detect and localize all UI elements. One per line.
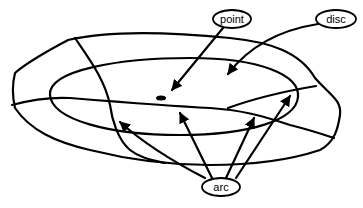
disc-label: disc bbox=[316, 10, 356, 28]
point-dot bbox=[156, 96, 166, 101]
disc-arrow bbox=[228, 24, 318, 74]
arc-label: arc bbox=[202, 178, 240, 196]
outer-region-boundary bbox=[13, 33, 340, 165]
arc-arrow-1 bbox=[120, 122, 205, 178]
right-arc bbox=[228, 86, 316, 108]
diagram-svg: point disc arc bbox=[0, 0, 363, 208]
arc-label-text: arc bbox=[213, 181, 229, 193]
disc-label-text: disc bbox=[326, 13, 346, 25]
diagram-canvas: point disc arc bbox=[0, 0, 363, 208]
point-label-text: point bbox=[220, 13, 244, 25]
disc-ellipse bbox=[50, 58, 298, 135]
point-label: point bbox=[213, 10, 251, 28]
arc-arrow-3 bbox=[226, 118, 254, 178]
